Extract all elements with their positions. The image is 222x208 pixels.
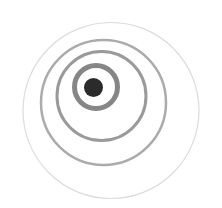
center-dot — [84, 78, 103, 97]
ripple-rings-image — [0, 0, 222, 208]
